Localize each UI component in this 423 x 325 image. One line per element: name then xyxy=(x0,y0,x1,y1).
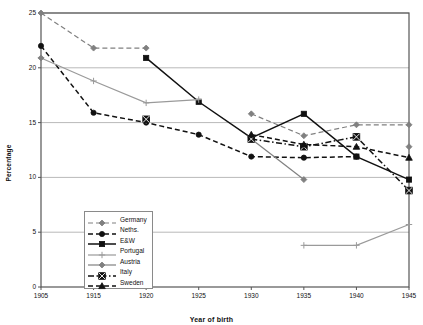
legend-swatch-diamond-icon xyxy=(87,256,117,266)
legend-item-germany[interactable]: Germany xyxy=(85,214,152,225)
legend-swatch-triangle-icon xyxy=(87,277,117,287)
legend-item-e-w[interactable]: E&W xyxy=(85,235,152,246)
legend-item-neths[interactable]: Neths. xyxy=(85,225,152,236)
legend-item-austria[interactable]: Austria xyxy=(85,256,152,267)
legend-swatch-square-icon xyxy=(87,235,117,245)
gridlines xyxy=(41,13,409,232)
x-axis-title: Year of birth xyxy=(0,316,423,323)
legend-item-portugal[interactable]: Portugal xyxy=(85,246,152,257)
x-tick-label: 1935 xyxy=(284,292,324,299)
chart-container: 0510152025 19051915192019251930193519401… xyxy=(0,0,423,325)
chart-legend: GermanyNeths.E&WPortugalAustriaItalySwed… xyxy=(84,211,153,289)
legend-item-italy[interactable]: Italy xyxy=(85,267,152,278)
legend-label: Neths. xyxy=(117,226,139,233)
legend-label: Sweden xyxy=(117,279,144,286)
x-tick-label: 1945 xyxy=(389,292,423,299)
y-tick-label: 15 xyxy=(14,119,36,126)
line-chart-plot xyxy=(0,0,423,325)
x-tick-label: 1925 xyxy=(179,292,219,299)
y-tick-label: 25 xyxy=(14,9,36,16)
legend-label: Austria xyxy=(117,258,140,265)
legend-swatch-plus-icon xyxy=(87,246,117,256)
y-tick-label: 20 xyxy=(14,64,36,71)
legend-label: Germany xyxy=(117,216,147,223)
series-e-w xyxy=(144,55,412,182)
legend-swatch-square-x-icon xyxy=(87,267,117,277)
legend-swatch-diamond-icon xyxy=(87,214,117,224)
y-axis-title: Percentage xyxy=(5,133,12,193)
legend-swatch-circle-icon xyxy=(87,225,117,235)
legend-label: Italy xyxy=(117,268,132,275)
x-tick-label: 1915 xyxy=(74,292,114,299)
x-tick-label: 1930 xyxy=(231,292,271,299)
y-tick-label: 10 xyxy=(14,173,36,180)
series-italy xyxy=(143,116,412,194)
series-austria xyxy=(38,55,412,183)
x-tick-label: 1920 xyxy=(126,292,166,299)
x-tick-label: 1940 xyxy=(336,292,376,299)
x-tick-label: 1905 xyxy=(21,292,61,299)
y-tick-label: 5 xyxy=(14,228,36,235)
legend-item-sweden[interactable]: Sweden xyxy=(85,277,152,288)
legend-label: E&W xyxy=(117,237,135,244)
y-tick-label: 0 xyxy=(14,283,36,290)
legend-label: Portugal xyxy=(117,247,144,254)
